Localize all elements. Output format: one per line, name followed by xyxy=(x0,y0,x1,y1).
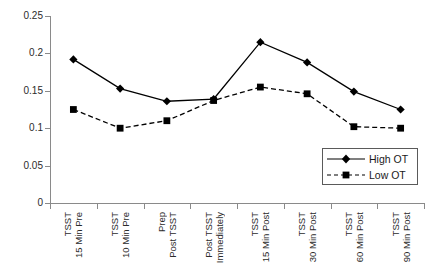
data-point-marker xyxy=(117,125,124,132)
x-axis-category-label-line: TSST xyxy=(109,212,120,236)
y-axis-tick-label-text: 0.2 xyxy=(3,48,43,58)
x-axis-category-label: 15 Min PostTSST xyxy=(237,212,283,276)
line-chart: 00.050.10.150.20.25 15 Min PreTSST10 Min… xyxy=(0,0,432,279)
data-point-marker xyxy=(116,84,124,92)
y-axis-tick-label: 0.1 xyxy=(0,123,43,133)
x-axis-category-label: 60 Min PostTSST xyxy=(331,212,377,276)
y-axis-tick-label-text: 0.25 xyxy=(3,11,43,21)
data-point-marker xyxy=(304,90,311,97)
x-axis-category-label-line: 15 Min Post xyxy=(260,212,271,262)
data-point-marker xyxy=(210,97,217,104)
x-axis-tick xyxy=(237,204,238,209)
chart-legend: High OT Low OT xyxy=(322,148,418,185)
data-point-marker xyxy=(397,105,405,113)
y-axis-tick-label: 0.15 xyxy=(0,86,43,96)
x-axis-category-label: 15 Min PreTSST xyxy=(50,212,96,276)
x-axis-category-label-line: 60 Min Post xyxy=(354,212,365,262)
legend-label-high-ot: High OT xyxy=(366,154,408,165)
x-axis-tick xyxy=(331,204,332,209)
x-axis-tick xyxy=(144,204,145,209)
data-point-marker xyxy=(69,55,77,63)
legend-label-low-ot: Low OT xyxy=(366,170,406,181)
x-axis-category-label: 30 Min PostTSST xyxy=(284,212,330,276)
x-axis-category-label-line: 30 Min Post xyxy=(307,212,318,262)
x-axis-category-label-line: Immediately xyxy=(214,212,225,263)
y-axis-tick-label-text: 0 xyxy=(3,198,43,208)
y-axis-tick-label-text: 0.15 xyxy=(3,86,43,96)
x-axis-category-label-line: TSST xyxy=(343,212,354,236)
x-axis-category-label: 10 Min PreTSST xyxy=(97,212,143,276)
data-point-marker xyxy=(257,84,264,91)
x-axis-category-label-line: 15 Min Pre xyxy=(73,212,84,258)
y-axis-tick-label: 0.2 xyxy=(0,48,43,58)
legend-key-high-ot xyxy=(326,152,366,166)
x-axis-tick xyxy=(377,204,378,209)
x-axis-tick xyxy=(97,204,98,209)
legend-key-low-ot xyxy=(326,168,366,182)
x-axis-tick xyxy=(424,204,425,209)
series-line-high-ot xyxy=(73,42,400,109)
data-point-marker xyxy=(397,125,404,132)
data-point-marker xyxy=(163,97,171,105)
x-axis-tick xyxy=(284,204,285,209)
data-point-marker xyxy=(303,58,311,66)
x-axis-category-label-line: 10 Min Pre xyxy=(120,212,131,258)
y-axis-tick-label-text: 0.05 xyxy=(3,161,43,171)
data-point-marker xyxy=(70,106,77,113)
x-axis-category-label: Post TSSTPrep xyxy=(144,212,190,276)
x-axis-category-label-line: Prep xyxy=(156,212,167,232)
x-axis-category-label: 90 Min PostTSST xyxy=(378,212,424,276)
x-axis-category-label-line: TSST xyxy=(62,212,73,236)
x-axis-category-label-line: TSST xyxy=(296,212,307,236)
y-axis-tick-label: 0.05 xyxy=(0,161,43,171)
x-axis-tick xyxy=(50,204,51,209)
x-axis-category-label-line: Post TSST xyxy=(203,212,214,258)
data-point-marker xyxy=(350,87,358,95)
x-axis-category-label: ImmediatelyPost TSST xyxy=(191,212,237,276)
x-axis-category-label-line: TSST xyxy=(249,212,260,236)
x-axis-category-label-line: 90 Min Post xyxy=(401,212,412,262)
x-axis-tick xyxy=(190,204,191,209)
y-axis-tick-label-text: 0.1 xyxy=(3,123,43,133)
x-axis-category-label-line: TSST xyxy=(390,212,401,236)
y-axis-tick-label: 0.25 xyxy=(0,11,43,21)
data-point-marker xyxy=(350,123,357,130)
data-point-marker xyxy=(163,117,170,124)
legend-item-low-ot: Low OT xyxy=(326,167,414,183)
legend-item-high-ot: High OT xyxy=(326,151,414,167)
y-axis-tick-label: 0 xyxy=(0,198,43,208)
x-axis-category-label-line: Post TSST xyxy=(167,212,178,258)
